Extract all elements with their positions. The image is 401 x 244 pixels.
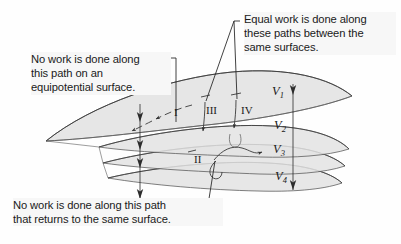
path-label-III: III bbox=[206, 104, 217, 116]
path-label-II: II bbox=[194, 153, 202, 165]
path-label-IV: IV bbox=[241, 104, 253, 116]
callout-equal-work: Equal work is done along these paths bet… bbox=[244, 12, 396, 55]
surface-label-V2: V2 bbox=[274, 118, 287, 134]
callout-equipotential-surface: No work is done along this path on an eq… bbox=[31, 52, 171, 95]
surface-left-edges bbox=[46, 141, 108, 178]
equipotential-surfaces-figure: V1 V2 V3 V4 I II III IV No work is done … bbox=[0, 0, 401, 244]
path-label-I: I bbox=[174, 106, 178, 118]
callout-returns-to-same-surface: No work is done along this path that ret… bbox=[13, 198, 223, 226]
